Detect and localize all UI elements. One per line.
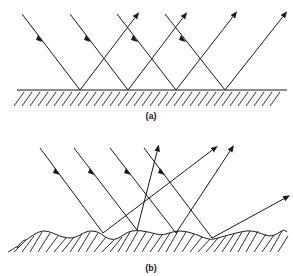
panel-a xyxy=(14,14,287,106)
surface-hatching-b xyxy=(8,231,288,252)
surface-hatching-a xyxy=(14,92,280,106)
incident-rays-b xyxy=(40,148,212,238)
rough-surface xyxy=(17,230,287,248)
incident-rays-a xyxy=(22,14,225,90)
panel-b xyxy=(8,148,288,252)
reflected-rays-b xyxy=(103,148,287,238)
arrow-icon xyxy=(88,168,95,175)
reflected-rays-a xyxy=(80,14,285,90)
arrow-icon xyxy=(53,168,60,175)
arrow-icon xyxy=(124,168,131,175)
arrow-icon xyxy=(158,168,165,175)
arrow-icon xyxy=(84,35,91,42)
reflection-diagram xyxy=(0,0,293,276)
panel-b-label: (b) xyxy=(145,263,157,273)
arrow-icon xyxy=(36,35,43,42)
panel-a-label: (a) xyxy=(146,111,157,121)
